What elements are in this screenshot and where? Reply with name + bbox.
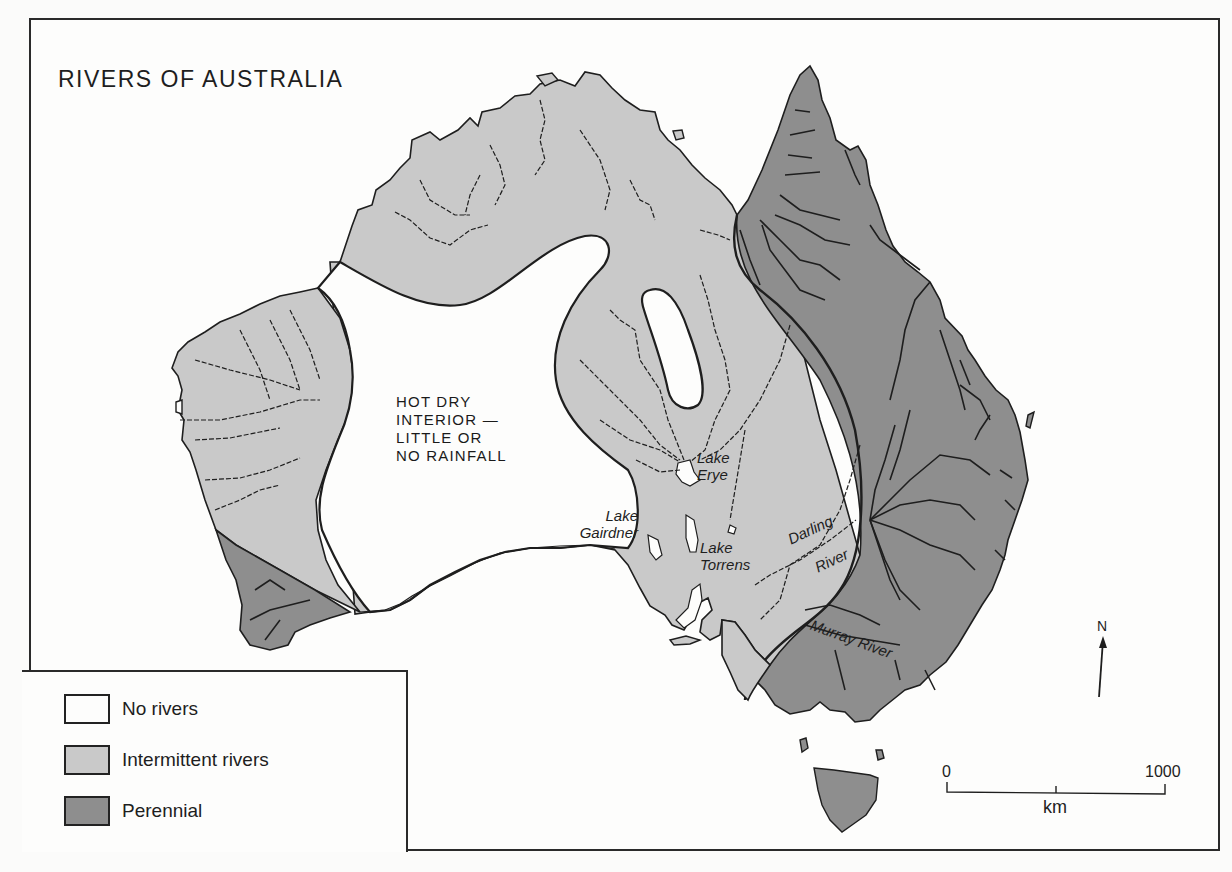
label-lake-gairdner: Lake Gairdner — [564, 507, 638, 541]
legend-swatch-no-rivers — [64, 694, 110, 724]
legend-swatch-perennial — [64, 796, 110, 826]
legend-swatch-intermittent — [64, 745, 110, 775]
scale-bar — [947, 782, 1165, 794]
interior-annotation: HOT DRY INTERIOR — LITTLE OR NO RAINFALL — [396, 393, 507, 465]
label-lake-torrens: Lake Torrens — [700, 539, 750, 573]
scale-start-label: 0 — [942, 763, 951, 781]
scale-unit-label: km — [1043, 797, 1067, 818]
map-title: RIVERS OF AUSTRALIA — [58, 66, 343, 93]
king-island — [876, 750, 884, 760]
small-west-island — [176, 400, 182, 414]
north-arrow-label: N — [1097, 618, 1107, 635]
label-lake-eyre: Lake Erye — [697, 449, 730, 483]
kangaroo-island — [670, 636, 700, 645]
fraser-island — [1026, 412, 1034, 428]
flinders-island — [800, 738, 808, 752]
legend-item-perennial: Perennial — [64, 796, 202, 826]
legend: No rivers Intermittent rivers Perennial — [22, 670, 408, 852]
scale-end-label: 1000 — [1145, 763, 1181, 781]
groote-island — [673, 130, 684, 140]
tasmania — [814, 768, 878, 832]
legend-item-no-rivers: No rivers — [64, 694, 198, 724]
legend-item-intermittent: Intermittent rivers — [64, 745, 269, 775]
north-arrow-icon — [1099, 636, 1107, 697]
